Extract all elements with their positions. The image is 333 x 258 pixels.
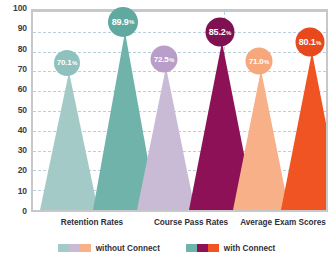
legend-item-with-connect[interactable]: with Connect <box>186 244 275 253</box>
legend-label-with: with Connect <box>224 244 275 253</box>
legend-label-without: without Connect <box>96 244 160 253</box>
category-label-examscores: Average Exam Scores <box>240 218 326 227</box>
legend-item-without-connect[interactable]: without Connect <box>58 244 160 253</box>
value-label: 70.1 <box>57 59 72 67</box>
value-label: 71.0 <box>249 57 264 65</box>
percent-sign: % <box>129 19 134 25</box>
value-bubble-coursepass-without: 72.5% <box>151 46 178 73</box>
value-label: 80.1 <box>299 38 316 47</box>
y-tick-label: 10 <box>18 186 27 196</box>
legend-swatch-without <box>58 244 91 252</box>
y-tick-label: 80 <box>18 44 27 54</box>
y-tick-label: 90 <box>18 23 27 33</box>
percent-sign: % <box>72 60 77 66</box>
y-tick-label: 60 <box>18 84 27 94</box>
y-tick-label: 100 <box>13 3 27 13</box>
percent-sign: % <box>264 58 269 64</box>
category-label-retention: Retention Rates <box>61 218 123 227</box>
value-bubble-examscores-with: 80.1% <box>296 28 325 57</box>
legend-swatch-with <box>186 244 219 252</box>
x-axis-labels: Retention Rates Course Pass Rates Averag… <box>31 218 328 234</box>
value-bubble-examscores-without: 71.0% <box>246 48 273 75</box>
y-axis: 100 90 80 70 60 50 40 30 20 10 0 <box>0 8 30 213</box>
y-tick-label: 30 <box>18 145 27 155</box>
percent-sign: % <box>226 29 231 35</box>
y-tick-label: 0 <box>22 206 27 216</box>
percent-sign: % <box>316 39 321 45</box>
bar-retention-without <box>40 72 98 210</box>
bars-layer <box>33 12 326 210</box>
category-label-coursepass: Course Pass Rates <box>154 218 228 227</box>
plot-area <box>31 9 328 212</box>
value-bubble-retention-without: 70.1% <box>54 50 80 76</box>
value-bubble-coursepass-with: 85.2% <box>206 18 235 47</box>
percent-sign: % <box>169 56 174 62</box>
chart-legend: without Connect with Connect <box>0 240 333 256</box>
value-bubble-retention-with: 89.9% <box>108 7 138 37</box>
bar-examscores-with <box>281 52 328 210</box>
y-tick-label: 20 <box>18 165 27 175</box>
y-tick-label: 50 <box>18 105 27 115</box>
chart-container: 100 90 80 70 60 50 40 30 20 10 0 <box>0 0 333 258</box>
bar-coursepass-without <box>137 67 195 210</box>
value-label: 89.9 <box>112 18 129 27</box>
value-label: 85.2 <box>209 28 226 37</box>
value-label: 72.5 <box>154 55 169 63</box>
y-tick-label: 70 <box>18 64 27 74</box>
y-tick-label: 40 <box>18 125 27 135</box>
